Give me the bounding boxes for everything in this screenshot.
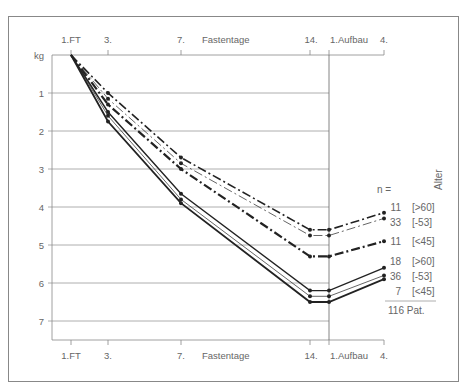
data-point <box>308 294 312 298</box>
data-point <box>106 102 110 106</box>
data-point <box>179 192 183 196</box>
y-tick-label: 2 <box>39 126 44 137</box>
x-axis-title-top: Fastentage <box>202 34 250 45</box>
data-point <box>327 300 331 304</box>
data-point <box>308 289 312 293</box>
data-point <box>179 156 183 160</box>
legend-title: Alter <box>433 169 444 190</box>
legend-age: [>60] <box>412 202 435 213</box>
legend-n: 11 <box>391 202 402 213</box>
data-point <box>382 216 386 220</box>
data-point <box>106 91 110 95</box>
x-tick-label-bottom: 14. <box>304 350 317 361</box>
weight-loss-chart: kg12345671.FT1.FT3.3.7.7.14.14.1.Aufbau1… <box>0 0 464 384</box>
y-tick-label: 1 <box>39 88 44 99</box>
legend-n: 18 <box>390 256 402 267</box>
legend-total: 116 Pat. <box>388 305 425 316</box>
x-axis-title-bottom: Fastentage <box>202 350 250 361</box>
series-line <box>71 55 384 236</box>
y-tick-label: 7 <box>39 316 44 327</box>
x-tick-label-top: 1.FT <box>61 34 81 45</box>
x-tick-label-top: 1.Aufbau <box>330 34 368 45</box>
legend-age: [<45] <box>412 286 435 297</box>
x-tick-label-bottom: 7. <box>177 350 185 361</box>
data-point <box>106 120 110 124</box>
data-point <box>382 277 386 281</box>
data-point <box>179 161 183 165</box>
x-tick-label-top: 4. <box>380 34 388 45</box>
x-tick-label-bottom: 1.FT <box>61 350 81 361</box>
data-point <box>327 254 331 258</box>
data-point <box>179 167 183 171</box>
x-tick-label-top: 7. <box>177 34 185 45</box>
data-point <box>382 239 386 243</box>
series-line <box>71 55 384 230</box>
data-point <box>179 201 183 205</box>
data-point <box>308 228 312 232</box>
series-line <box>71 55 384 302</box>
y-tick-label: kg <box>34 50 44 61</box>
data-point <box>382 273 386 277</box>
x-tick-label-bottom: 3. <box>104 350 112 361</box>
data-point <box>382 266 386 270</box>
legend-header: n = <box>377 184 391 195</box>
legend-n: 7 <box>395 286 401 297</box>
legend-n: 36 <box>390 271 402 282</box>
legend-n: 11 <box>391 236 402 247</box>
y-tick-label: 4 <box>39 202 44 213</box>
data-point <box>106 97 110 101</box>
data-point <box>327 289 331 293</box>
data-point <box>308 300 312 304</box>
y-tick-label: 3 <box>39 164 44 175</box>
x-tick-label-top: 14. <box>304 34 317 45</box>
y-tick-label: 5 <box>39 240 44 251</box>
data-point <box>327 228 331 232</box>
series-line <box>71 55 384 296</box>
data-point <box>308 254 312 258</box>
legend-age: [>60] <box>412 256 435 267</box>
legend-age: [-53] <box>412 217 432 228</box>
data-point <box>327 294 331 298</box>
x-tick-label-bottom: 4. <box>380 350 388 361</box>
legend-age: [-53] <box>412 271 432 282</box>
x-tick-label-bottom: 1.Aufbau <box>330 350 368 361</box>
y-tick-label: 6 <box>39 278 44 289</box>
data-point <box>308 234 312 238</box>
legend-age: [<45] <box>412 236 435 247</box>
data-point <box>327 234 331 238</box>
data-point <box>382 211 386 215</box>
x-tick-label-top: 3. <box>104 34 112 45</box>
series-line <box>71 55 384 256</box>
legend-n: 33 <box>390 217 402 228</box>
